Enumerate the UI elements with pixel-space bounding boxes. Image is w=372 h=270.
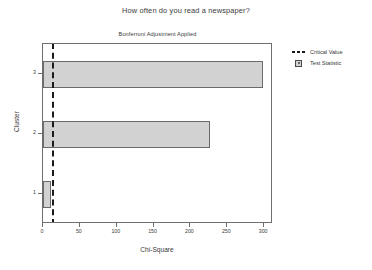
x-tick-label: 100	[101, 228, 131, 234]
x-tick	[263, 223, 264, 227]
dashed-line-icon	[292, 47, 306, 56]
chart-figure: How often do you read a newspaper? Bonfe…	[0, 0, 372, 270]
legend-item-test-statistic: Test Statistic	[292, 57, 370, 68]
x-tick	[116, 223, 117, 227]
bar-cluster-1	[43, 181, 51, 208]
x-tick-label: 250	[211, 228, 241, 234]
bar-cluster-3	[43, 61, 263, 88]
y-tick-label: 1	[20, 189, 36, 195]
legend-label-critical-value: Critical Value	[310, 49, 343, 55]
x-tick-label: 150	[138, 228, 168, 234]
x-tick	[189, 223, 190, 227]
y-tick	[38, 73, 42, 74]
x-tick	[153, 223, 154, 227]
plot-inner	[43, 44, 271, 222]
x-tick	[79, 223, 80, 227]
critical-value-line	[52, 44, 54, 222]
x-tick-label: 200	[174, 228, 204, 234]
y-tick-label: 3	[20, 69, 36, 75]
legend-label-test-statistic: Test Statistic	[310, 60, 341, 66]
chart-subtitle: Bonferroni Adjustment Applied	[42, 31, 273, 37]
x-tick-label: 50	[64, 228, 94, 234]
x-tick-label: 0	[27, 228, 57, 234]
square-swatch-icon	[292, 58, 306, 67]
legend-item-critical-value: Critical Value	[292, 46, 370, 57]
y-axis-title: Cluster	[13, 92, 20, 152]
x-tick	[226, 223, 227, 227]
y-tick	[38, 133, 42, 134]
x-tick-label: 300	[248, 228, 278, 234]
bar-cluster-2	[43, 121, 210, 148]
legend: Critical Value Test Statistic	[292, 46, 370, 68]
x-tick	[42, 223, 43, 227]
y-tick	[38, 193, 42, 194]
plot-area	[42, 43, 272, 223]
x-axis-title: Chi-Square	[42, 246, 272, 253]
y-tick-label: 2	[20, 129, 36, 135]
chart-title: How often do you read a newspaper?	[0, 6, 372, 15]
